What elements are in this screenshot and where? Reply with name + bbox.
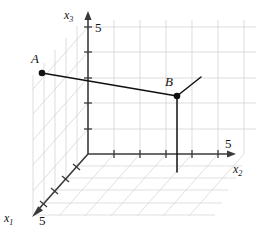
point-A-label: A [30,51,39,66]
axis-x1-label: x1 [3,211,13,227]
figure-3d-coordinate-system: A B x3 5 x2 5 x1 5 [0,0,259,239]
floor-grid [33,154,244,216]
axis-x2-label: x2 [232,162,242,178]
axis-x1 [32,154,88,217]
point-B-dot[interactable] [174,93,181,100]
segment-B-depth [177,77,201,96]
axis-x2 [88,150,236,158]
left-wall-grid [33,26,88,215]
axis-x3-tick-label: 5 [95,20,102,35]
segment-AB [42,73,177,96]
axis-x3-label: x3 [63,8,73,24]
point-B-label: B [165,74,173,89]
axis-x1-tick-label: 5 [39,213,46,228]
axis-x2-tick-label: 5 [225,136,232,151]
coordinate-diagram-svg: A B x3 5 x2 5 x1 5 [0,0,259,239]
point-A-dot[interactable] [39,70,46,77]
axis-x2-label-sub: 2 [238,169,242,178]
axis-x1-label-sub: 1 [9,218,13,227]
axis-x3-label-sub: 3 [68,15,73,24]
